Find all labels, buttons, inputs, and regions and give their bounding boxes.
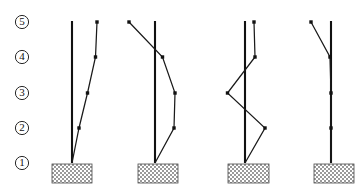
mode-1-node-level-2: [77, 126, 80, 129]
modes-group: [52, 20, 354, 183]
level-label-3: 3: [15, 86, 28, 100]
mode-2-node-level-3: [173, 91, 176, 94]
mode-1-deflection-line: [72, 22, 97, 163]
mode-4-node-level-3: [329, 91, 332, 94]
level-label-group: 54321: [15, 15, 28, 170]
mode-shape-figure: 54321: [0, 0, 363, 191]
mode-1-group: [52, 20, 99, 183]
mode-1-ground-support: [52, 164, 92, 183]
mode-4-deflection-line: [311, 22, 331, 163]
level-label-5: 5: [15, 15, 28, 29]
mode-2-ground-support: [138, 164, 178, 183]
mode-3-ground-support: [228, 164, 269, 183]
mode-3-node-level-3: [226, 91, 229, 94]
mode-3-node-level-4: [253, 55, 256, 58]
mode-4-node-level-5: [309, 20, 312, 23]
mode-2-node-level-5: [127, 20, 130, 23]
mode-shape-diagram-canvas: 54321: [0, 0, 363, 191]
mode-3-node-level-2: [263, 126, 266, 129]
level-label-text: 1: [19, 156, 25, 168]
mode-4-node-level-2: [329, 126, 332, 129]
mode-2-node-level-2: [172, 126, 175, 129]
mode-4-node-level-4: [328, 55, 331, 58]
mode-2-group: [127, 20, 178, 183]
mode-3-node-level-5: [252, 20, 255, 23]
mode-2-node-level-4: [161, 55, 164, 58]
mode-4-group: [309, 20, 354, 183]
level-label-text: 3: [19, 86, 25, 98]
level-label-1: 1: [15, 156, 28, 170]
mode-3-deflection-line: [228, 22, 266, 163]
mode-1-node-level-3: [86, 91, 89, 94]
level-label-text: 2: [19, 121, 25, 133]
mode-4-ground-support: [314, 164, 354, 183]
level-label-2: 2: [15, 121, 28, 135]
level-label-text: 5: [19, 15, 25, 27]
level-label-text: 4: [19, 50, 25, 62]
mode-3-group: [226, 20, 269, 183]
level-label-4: 4: [15, 50, 28, 64]
mode-1-node-level-5: [95, 20, 98, 23]
mode-1-node-level-4: [94, 55, 97, 58]
mode-2-deflection-line: [129, 22, 175, 163]
